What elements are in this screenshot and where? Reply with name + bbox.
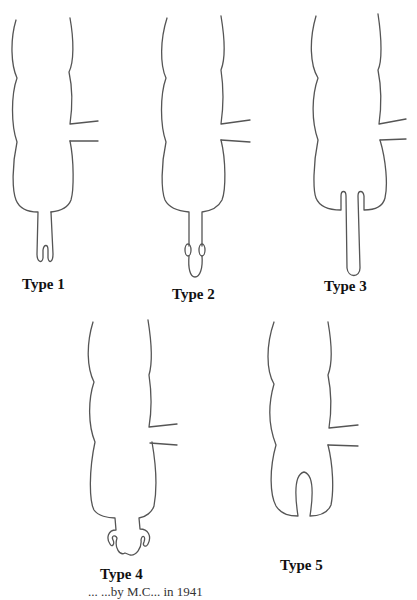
type-5-label: Type 5	[280, 557, 323, 574]
figure-type-5	[268, 322, 358, 516]
figure-type-1	[12, 18, 98, 261]
type-2-label: Type 2	[172, 286, 215, 303]
type-1-label: Type 1	[22, 276, 65, 293]
figure-type-2	[162, 16, 251, 277]
type-4-label: Type 4	[100, 566, 143, 583]
figure-caption: ... ...by M.C... in 1941	[88, 584, 203, 600]
type-3-label: Type 3	[324, 278, 367, 295]
figure-type-4	[88, 320, 177, 555]
figure-type-3	[311, 14, 406, 276]
